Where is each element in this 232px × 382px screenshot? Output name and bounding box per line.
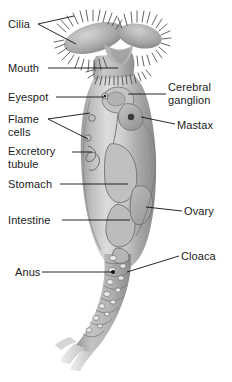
label-ovary: Ovary [184,205,214,218]
figure-canvas: Cilia Mouth Eyespot Flame cells Excretor… [0,0,232,382]
mastax-jaw-dot [128,114,134,120]
label-excretory-tubule-line2: tubule [8,158,39,171]
corona-right-lobe [116,20,164,53]
label-flame-cells-line2: cells [8,126,31,139]
label-stomach: Stomach [8,178,52,191]
cerebral-ganglion-core [107,92,125,106]
label-flame-cells-line1: Flame [8,113,39,126]
leader-cilia-a [38,16,74,24]
label-mouth: Mouth [8,62,39,75]
flame-cell-upper [89,115,96,122]
label-anus: Anus [15,266,40,279]
label-cilia: Cilia [8,18,30,31]
label-cerebral-ganglion-line2: ganglion [168,94,210,107]
label-excretory-tubule-line1: Excretory [8,145,55,158]
label-cerebral-ganglion-line1: Cerebral [168,81,211,94]
label-intestine: Intestine [8,214,50,227]
rotifer-anatomy-illustration [0,0,232,382]
label-eyespot: Eyespot [8,91,48,104]
anus-dot [111,270,115,274]
label-cloaca: Cloaca [181,250,216,263]
label-mastax: Mastax [177,119,213,132]
